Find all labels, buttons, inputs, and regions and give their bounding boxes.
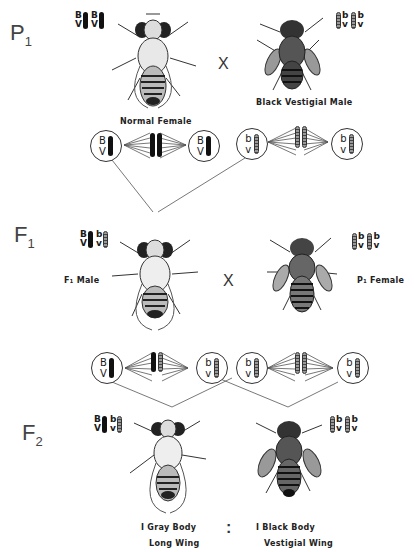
- genotype-f1-female: bv bv: [352, 232, 380, 250]
- chromosome-pair-p1-male: [295, 126, 307, 148]
- caption-f1-male: F₁ Male: [64, 276, 99, 285]
- fly-black-vestigial-male-icon: [255, 10, 330, 95]
- genotype-f2-black-vestigial: bv bv: [330, 415, 358, 433]
- fly-p1-female-icon: [265, 232, 340, 317]
- genotype-f1-male: BV bv: [80, 230, 108, 248]
- gamete-f1-female-2: bv: [337, 352, 369, 384]
- genotype-f2-gray-long: BV bv: [94, 415, 122, 433]
- chromosome-dominant: [83, 12, 88, 29]
- cross-symbol-f1: X: [223, 272, 234, 290]
- ratio-symbol: :: [226, 519, 231, 537]
- genotype-p1-male: bv bv: [336, 11, 364, 29]
- chromosome-pair-f1-female: [295, 352, 307, 374]
- caption-black-vestigial-male: Black Vestigial Male: [256, 98, 353, 107]
- gamete-p1-female-left: BV: [90, 130, 122, 162]
- fly-black-body-vestigial-wing-icon: [252, 415, 327, 500]
- generation-label-p1: P1: [10, 20, 32, 49]
- caption-f2-gray-long: I Gray Body Long Wing: [141, 520, 200, 552]
- gamete-p1-female-right: BV: [188, 130, 220, 162]
- gamete-f1-male-2: bv: [196, 352, 228, 384]
- generation-label-f1: F1: [14, 222, 35, 251]
- genotype-p1-female: BV BV: [75, 11, 104, 29]
- caption-p1-female: P₁ Female: [357, 276, 404, 285]
- caption-normal-female: Normal Female: [120, 117, 192, 126]
- chromosome-recessive: [336, 12, 341, 29]
- gamete-p1-male-right: bv: [331, 128, 363, 160]
- chromosome-dominant: [99, 12, 104, 29]
- gamete-f1-male-1: BV: [91, 352, 123, 384]
- chromosome-pair-p1-female: [150, 133, 162, 157]
- chromosome-recessive: [351, 12, 356, 29]
- gamete-p1-male-left: bv: [236, 128, 268, 160]
- fly-f1-male-icon: [110, 232, 200, 332]
- caption-f2-black-vestigial: I Black Body Vestigial Wing: [256, 520, 333, 552]
- fly-normal-female-icon: [108, 8, 198, 113]
- chromosome-pair-f1-male: [151, 352, 163, 372]
- fly-gray-body-long-wing-icon: [128, 415, 208, 515]
- gamete-f1-female-1: bv: [236, 352, 268, 384]
- cross-symbol-p1: X: [218, 55, 229, 73]
- generation-label-f2: F2: [22, 420, 43, 449]
